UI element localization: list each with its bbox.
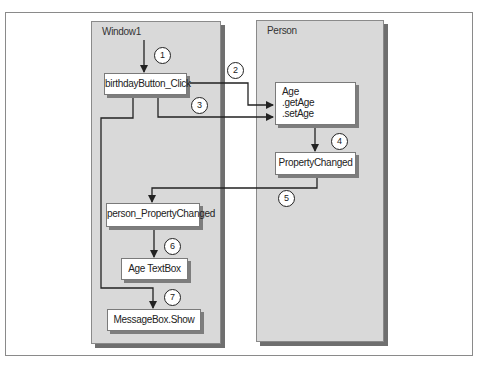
birthday-button-click-box: birthdayButton_Click — [104, 73, 187, 95]
age-label: Age — [282, 86, 355, 97]
step-4-marker: 4 — [331, 133, 348, 150]
step-3-marker: 3 — [191, 97, 208, 114]
set-age-label: .setAge — [282, 108, 355, 119]
step-7-marker: 7 — [164, 289, 181, 306]
step-5-marker: 5 — [278, 190, 295, 207]
age-textbox-label: Age TextBox — [128, 263, 181, 274]
step-1-marker: 1 — [154, 47, 171, 64]
get-age-label: .getAge — [282, 97, 355, 108]
age-property-box: Age .getAge .setAge — [275, 82, 356, 125]
age-textbox-box: Age TextBox — [121, 258, 188, 280]
messagebox-show-label: MessageBox.Show — [113, 314, 194, 325]
step-2-marker: 2 — [227, 62, 244, 79]
person-property-changed-box: person_PropertyChanged — [106, 203, 200, 227]
flow-connectors — [0, 0, 480, 366]
messagebox-show-box: MessageBox.Show — [107, 309, 201, 331]
step-6-marker: 6 — [164, 238, 181, 255]
property-changed-label: PropertyChanged — [279, 157, 353, 168]
property-changed-box: PropertyChanged — [275, 152, 356, 175]
person-property-changed-label: person_PropertyChanged — [107, 208, 215, 219]
birthday-button-click-label: birthdayButton_Click — [105, 78, 191, 89]
